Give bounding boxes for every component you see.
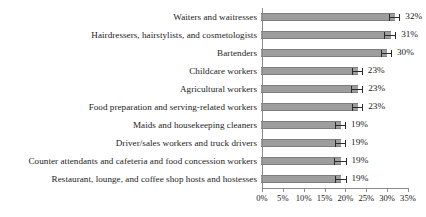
error-bar-cap-left (351, 86, 352, 93)
error-bar-cap-right (346, 176, 347, 183)
x-axis-tick-label: 20% (338, 193, 354, 203)
bar (261, 85, 358, 93)
error-bar-cap-left (352, 68, 353, 75)
error-bar (335, 178, 347, 180)
x-axis-tick (325, 188, 326, 192)
error-bar (335, 124, 346, 126)
chart-rows: Waiters and waitresses32%Hairdressers, h… (0, 8, 426, 188)
x-axis-tick (387, 188, 388, 192)
chart-row: Waiters and waitresses32% (0, 8, 426, 26)
error-bar-cap-left (384, 32, 385, 39)
value-label: 23% (368, 65, 385, 76)
error-bar-cap-right (345, 122, 346, 129)
plot-cell: 19% (261, 170, 426, 188)
value-label: 30% (397, 47, 414, 58)
value-label: 23% (368, 83, 385, 94)
error-bar-cap-left (335, 176, 336, 183)
category-label: Waiters and waitresses (0, 12, 261, 22)
plot-cell: 19% (261, 116, 426, 134)
category-label: Counter attendants and cafeteria and foo… (0, 156, 261, 166)
x-axis-tick-label: 0% (256, 193, 267, 203)
category-label: Maids and housekeeping cleaners (0, 120, 261, 130)
plot-cell: 23% (261, 80, 426, 98)
x-axis-tick-label: 10% (296, 193, 312, 203)
x-axis-tick (304, 188, 305, 192)
error-bar-cap-left (335, 140, 336, 147)
error-bar-cap-right (362, 104, 363, 111)
x-axis-tick (345, 188, 346, 192)
chart-row: Agricultural workers23% (0, 80, 426, 98)
bar (261, 157, 341, 165)
bar (261, 121, 341, 129)
chart-row: Bartenders30% (0, 44, 426, 62)
chart-row: Maids and housekeeping cleaners19% (0, 116, 426, 134)
chart-row: Restaurant, lounge, and coffee shop host… (0, 170, 426, 188)
x-axis-tick (366, 188, 367, 192)
chart-row: Driver/sales workers and truck drivers19… (0, 134, 426, 152)
error-bar-cap-left (352, 104, 353, 111)
error-bar-cap-right (391, 50, 392, 57)
x-axis-tick-label: 30% (379, 193, 395, 203)
bar-chart: Waiters and waitresses32%Hairdressers, h… (0, 0, 426, 217)
category-label: Driver/sales workers and truck drivers (0, 138, 261, 148)
error-bar-cap-left (335, 122, 336, 129)
error-bar-cap-right (345, 140, 346, 147)
bar (261, 13, 395, 21)
bar (261, 175, 341, 183)
error-bar (352, 106, 364, 108)
error-bar-cap-right (362, 86, 363, 93)
error-bar (384, 34, 396, 36)
x-axis-tick (262, 188, 263, 192)
x-axis-tick (408, 188, 409, 192)
value-label: 23% (368, 101, 385, 112)
category-label: Childcare workers (0, 66, 261, 76)
plot-cell: 32% (261, 8, 426, 26)
value-label: 19% (351, 119, 368, 130)
category-label: Food preparation and serving-related wor… (0, 102, 261, 112)
x-axis-tick-label: 15% (317, 193, 333, 203)
chart-row: Hairdressers, hairstylists, and cosmetol… (0, 26, 426, 44)
value-label: 19% (351, 137, 368, 148)
error-bar (389, 16, 401, 18)
x-axis-tick-label: 25% (358, 193, 374, 203)
plot-cell: 31% (261, 26, 426, 44)
x-axis-tick-label: 35% (400, 193, 416, 203)
error-bar (381, 52, 392, 54)
error-bar-cap-right (362, 68, 363, 75)
error-bar-cap-left (389, 14, 390, 21)
x-axis-tick (283, 188, 284, 192)
bar (261, 103, 358, 111)
x-axis-tick-label: 5% (277, 193, 288, 203)
value-label: 19% (352, 155, 369, 166)
error-bar-cap-right (346, 158, 347, 165)
bar (261, 139, 341, 147)
category-label: Hairdressers, hairstylists, and cosmetol… (0, 30, 261, 40)
category-label: Restaurant, lounge, and coffee shop host… (0, 174, 261, 184)
plot-cell: 19% (261, 134, 426, 152)
value-label: 32% (405, 11, 422, 22)
category-label: Agricultural workers (0, 84, 261, 94)
error-bar-cap-right (399, 14, 400, 21)
value-label: 31% (401, 29, 418, 40)
bar (261, 49, 387, 57)
chart-row: Counter attendants and cafeteria and foo… (0, 152, 426, 170)
bar (261, 67, 358, 75)
bar (261, 31, 391, 39)
category-label: Bartenders (0, 48, 261, 58)
error-bar-cap-right (395, 32, 396, 39)
x-axis-line (262, 188, 408, 189)
error-bar (352, 70, 363, 72)
plot-cell: 30% (261, 44, 426, 62)
plot-cell: 23% (261, 98, 426, 116)
plot-cell: 19% (261, 152, 426, 170)
error-bar (351, 88, 363, 90)
error-bar-cap-left (334, 158, 335, 165)
y-axis-line (262, 8, 263, 188)
error-bar-cap-left (381, 50, 382, 57)
value-label: 19% (352, 173, 369, 184)
chart-row: Food preparation and serving-related wor… (0, 98, 426, 116)
chart-row: Childcare workers23% (0, 62, 426, 80)
plot-cell: 23% (261, 62, 426, 80)
error-bar (335, 142, 346, 144)
error-bar (334, 160, 346, 162)
